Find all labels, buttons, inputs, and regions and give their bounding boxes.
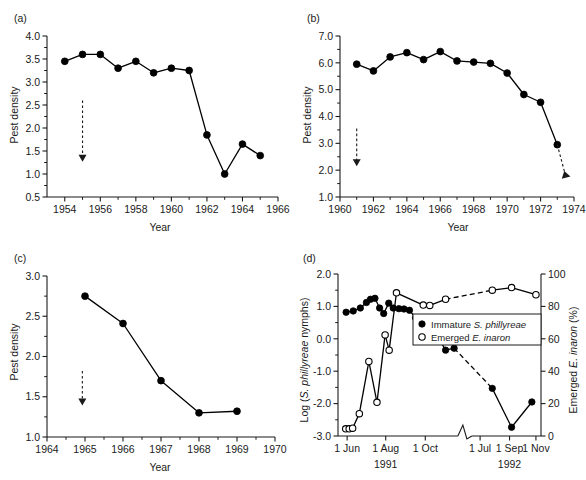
data-point: [82, 293, 89, 300]
y-tick-label: 2.0: [25, 122, 40, 134]
series-segment: [512, 288, 536, 295]
x-tick-label: 1962: [195, 203, 219, 215]
data-point: [454, 58, 461, 65]
release-arrow-head: [79, 155, 87, 162]
panel-a: (a) 19541956195819601962196419660.51.01.…: [0, 0, 293, 240]
data-point: [520, 91, 527, 98]
y-tick-label: 6.0: [318, 57, 333, 69]
data-point: [132, 58, 139, 65]
x-tick-label: 1966: [429, 203, 453, 215]
panel-d-ylabel-right: Emerged E. inaron (%): [567, 307, 579, 414]
x-tick-label: 1972: [529, 203, 553, 215]
data-point: [357, 305, 363, 311]
data-point: [508, 284, 514, 290]
y-tick-label: 2.0: [318, 164, 333, 176]
y-tick-label: 1.0: [25, 431, 40, 443]
x-tick-label: 1970: [495, 203, 519, 215]
series-line: [85, 296, 237, 413]
data-point: [349, 425, 355, 431]
x-tick-label: 1968: [462, 203, 486, 215]
y-tick-label-left: -1.0: [313, 365, 331, 377]
series-segment: [512, 402, 532, 427]
y-tick-label-left: 1.0: [316, 300, 331, 312]
y-tick-label-right: 0: [548, 430, 554, 442]
x-tick-label: 1968: [187, 443, 211, 455]
data-point: [427, 302, 433, 308]
data-point: [533, 292, 539, 298]
data-point: [158, 377, 165, 384]
data-point: [257, 152, 264, 159]
x-tick-label: 1969: [225, 443, 249, 455]
data-point: [508, 424, 514, 430]
x-tick-label: 1964: [231, 203, 255, 215]
panel-b-ylabel: Pest density: [301, 86, 313, 144]
data-point: [370, 67, 377, 74]
data-point: [420, 302, 426, 308]
panel-a-letter: (a): [14, 12, 27, 24]
data-point: [537, 99, 544, 106]
y-tick-label: 1.0: [318, 191, 333, 203]
data-point: [382, 332, 388, 338]
y-tick-label: 2.5: [25, 99, 40, 111]
y-tick-label-right: 80: [548, 300, 560, 312]
data-point: [61, 58, 68, 65]
data-point: [115, 65, 122, 72]
data-point: [150, 69, 157, 76]
x-tick-label: 1966: [111, 443, 135, 455]
panel-d-ylabel-left: Log (S. phillyreae nymphs): [298, 298, 310, 423]
data-point: [487, 60, 494, 67]
legend-label: Immature S. phillyreae: [431, 319, 526, 330]
x-tick-label: 1 Nov: [522, 442, 550, 454]
panel-c: (c) 19641965196619671968196919701.01.52.…: [0, 240, 293, 480]
panel-d: (d) -3.0-2.0-1.00.01.02.00204060801001 J…: [293, 240, 586, 480]
x-tick-label: 1964: [395, 203, 419, 215]
y-tick-label: 4.0: [318, 110, 333, 122]
x-tick-label: 1974: [562, 203, 586, 215]
y-tick-label: 2.5: [25, 310, 40, 322]
panel-c-letter: (c): [14, 252, 26, 264]
data-point: [204, 132, 211, 139]
panel-d-letter: (d): [303, 252, 316, 264]
y-tick-label: 4.0: [25, 30, 40, 42]
data-point: [234, 408, 241, 415]
x-tick-label: 1954: [53, 203, 77, 215]
data-point: [442, 347, 448, 353]
y-tick-label-right: 40: [548, 365, 560, 377]
legend-label: Emerged E. inaron: [431, 332, 510, 343]
panel-a-ylabel: Pest density: [8, 86, 20, 144]
release-arrow-head: [78, 398, 86, 405]
data-point: [403, 49, 410, 56]
x-tick-label: 1958: [124, 203, 148, 215]
data-point: [386, 347, 392, 353]
series-segment: [396, 293, 423, 305]
data-point: [442, 296, 448, 302]
panel-b: (b) 196019621964196619681970197219741.02…: [293, 0, 586, 240]
panel-b-chart: (b) 196019621964196619681970197219741.02…: [293, 0, 586, 240]
y-tick-label: 5.0: [318, 83, 333, 95]
data-point: [376, 305, 382, 311]
y-tick-label-left: 0.0: [316, 333, 331, 345]
x-tick-label: 1964: [35, 443, 59, 455]
release-arrow-head: [353, 159, 361, 166]
drop-arrow-head: [560, 170, 571, 179]
year-label-1991: 1991: [374, 458, 398, 470]
x-tick-label: 1970: [263, 443, 287, 455]
data-point: [374, 399, 380, 405]
series-segment: [454, 348, 492, 388]
series-segment: [446, 290, 493, 299]
y-tick-label: 3.0: [25, 270, 40, 282]
legend-marker: [419, 321, 425, 327]
x-tick-label: 1966: [266, 203, 290, 215]
y-tick-label: 3.0: [318, 137, 333, 149]
data-point: [353, 61, 360, 68]
data-point: [239, 141, 246, 148]
data-point: [186, 67, 193, 74]
y-tick-label-left: -3.0: [313, 430, 331, 442]
data-point: [168, 65, 175, 72]
x-tick-label: 1 Jul: [469, 442, 491, 454]
data-point: [350, 308, 356, 314]
y-tick-label: 3.5: [25, 53, 40, 65]
data-point: [366, 358, 372, 364]
x-axis-break-mark: [458, 425, 472, 439]
x-tick-label: 1967: [149, 443, 173, 455]
